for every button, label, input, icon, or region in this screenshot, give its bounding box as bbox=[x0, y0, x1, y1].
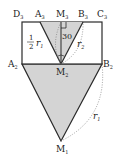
label-b3: B3 bbox=[78, 9, 88, 20]
label-r1-bottom: r1 bbox=[93, 111, 101, 122]
angle-30-label: 30 bbox=[62, 32, 72, 41]
fraction-numerator: 1 bbox=[29, 34, 33, 42]
label-m1: M1 bbox=[56, 144, 68, 155]
label-c3: C3 bbox=[97, 9, 107, 20]
label-b2: B2 bbox=[103, 59, 113, 70]
label-a3: A3 bbox=[34, 9, 45, 20]
label-m3: M3 bbox=[56, 9, 68, 20]
label-d3: D3 bbox=[13, 9, 23, 20]
geometry-diagram: D3 A3 M3 B3 C3 A2 B2 M2 M1 1 2 r1 30 r2 … bbox=[0, 0, 119, 156]
label-a2: A2 bbox=[7, 59, 18, 70]
fraction-denominator: 2 bbox=[29, 43, 33, 51]
